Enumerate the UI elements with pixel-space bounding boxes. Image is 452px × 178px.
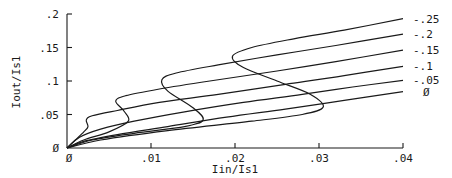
x-tick-label: Ø [66,152,73,165]
series-label: -.2 [413,28,433,41]
curves [67,19,403,148]
y-axis-title: Iout/Is1 [10,56,23,109]
series-label: Ø [423,86,430,99]
x-tick-label: .01 [141,152,161,165]
curve-2 [67,34,403,148]
series-labels: -.25-.2-.15-.1-.05Ø [413,13,440,99]
y-tick-label: .1 [46,75,59,88]
series-label: -.1 [413,60,433,73]
series-label: -.25 [413,13,440,26]
y-tick-label: Ø [52,142,59,155]
series-label: -.15 [413,44,440,57]
y-tick-label: .05 [39,109,59,122]
y-tick-label: .15 [39,42,59,55]
curve-0 [67,92,403,148]
x-axis-title: Iin/Is1 [212,163,258,176]
chart: Ø.01.02.03.04Ø.05.1.15.2 -.25-.2-.15-.1-… [0,0,452,178]
x-tick-label: .04 [393,152,413,165]
x-tick-label: .03 [309,152,329,165]
y-tick-label: .2 [46,8,59,21]
